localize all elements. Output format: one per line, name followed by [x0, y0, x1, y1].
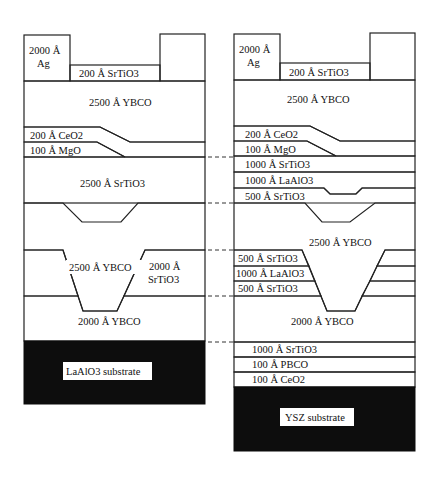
left-ag-thickness-label: 2000 Å — [29, 45, 61, 56]
left-mid-ybco-label: 2500 Å YBCO — [69, 262, 132, 273]
right-srtio3-d-label: 500 Å SrTiO3 — [238, 283, 298, 294]
right-laalo3-b-label: 1000 Å LaAlO3 — [236, 268, 304, 279]
right-bottom-ybco-label: 2000 Å YBCO — [291, 316, 354, 327]
right-ag-contact-right — [370, 33, 415, 80]
right-srtio3-c-layer-right — [377, 250, 415, 266]
left-substrate-label: LaAlO3 substrate — [66, 366, 141, 377]
right-laalo3-a-label: 1000 Å LaAlO3 — [245, 175, 313, 186]
left-insulator-thickness-label: 2000 Å — [149, 261, 181, 272]
right-buffer-ceo2-label: 100 Å CeO2 — [252, 374, 305, 385]
right-srtio3-a-label: 1000 Å SrTiO3 — [245, 159, 310, 170]
right-mgo-label: 100 Å MgO — [245, 144, 296, 155]
right-stack: 2000 Å Ag 200 Å SrTiO3 2500 Å YBCO 200 Å… — [234, 33, 415, 451]
left-mgo-label: 100 Å MgO — [30, 145, 81, 156]
left-mid-srtio3-label: 2500 Å SrTiO3 — [80, 178, 145, 189]
right-srtio3-c-label: 500 Å SrTiO3 — [238, 253, 298, 264]
multilayer-cross-section-diagram: 2000 Å Ag 200 Å SrTiO3 2500 Å YBCO 200 Å… — [0, 0, 436, 478]
left-insulator-material-label: SrTiO3 — [148, 274, 179, 285]
right-srtio3-b-label: 500 Å SrTiO3 — [245, 191, 305, 202]
right-srtio3-d-layer-right — [362, 281, 415, 296]
left-ag-material-label: Ag — [37, 58, 51, 69]
left-ceo2-label: 200 Å CeO2 — [30, 130, 83, 141]
right-ag-material-label: Ag — [247, 57, 261, 68]
right-top-srtio3-label: 200 Å SrTiO3 — [289, 67, 349, 78]
right-substrate-label: YSZ substrate — [285, 412, 345, 423]
right-ceo2-label: 200 Å CeO2 — [245, 129, 298, 140]
right-laalo3-b-layer-right — [370, 266, 415, 281]
left-top-srtio3-label: 200 Å SrTiO3 — [79, 68, 139, 79]
right-pbco-label: 100 Å PBCO — [252, 359, 308, 370]
right-top-ybco-label: 2500 Å YBCO — [287, 94, 350, 105]
layer-alignment-connectors — [208, 157, 234, 342]
left-bottom-ybco-label: 2000 Å YBCO — [78, 316, 141, 327]
right-ag-thickness-label: 2000 Å — [239, 44, 271, 55]
left-stack: 2000 Å Ag 200 Å SrTiO3 2500 Å YBCO 200 Å… — [24, 34, 205, 404]
right-mid-ybco-label: 2500 Å YBCO — [309, 237, 372, 248]
left-top-ybco-label: 2500 Å YBCO — [89, 97, 152, 108]
right-buffer-srtio3-label: 1000 Å SrTiO3 — [252, 344, 317, 355]
